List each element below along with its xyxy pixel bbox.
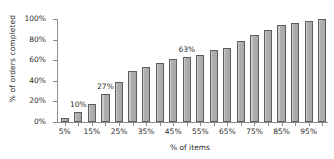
x-tick-label: 35% <box>138 127 155 136</box>
bar <box>115 82 123 122</box>
x-tick-mark <box>187 122 188 126</box>
bar <box>196 55 204 122</box>
bar <box>264 30 272 122</box>
x-tick-mark <box>200 122 201 126</box>
x-tick-mark <box>146 122 147 126</box>
x-tick-mark <box>282 122 283 126</box>
y-tick-mark <box>53 81 57 82</box>
bar <box>210 50 218 122</box>
x-tick-mark <box>295 122 296 126</box>
plot-area: 0%20%40%60%80%100% 5%15%25%35%45%55%65%7… <box>57 19 328 122</box>
y-tick-mark <box>53 101 57 102</box>
x-tick-mark <box>105 122 106 126</box>
bar <box>223 48 231 122</box>
x-tick-label: 15% <box>84 127 101 136</box>
x-tick-mark <box>78 122 79 126</box>
x-tick-label: 75% <box>246 127 263 136</box>
x-tick-mark <box>214 122 215 126</box>
x-tick-label: 65% <box>219 127 236 136</box>
x-tick-label: 55% <box>192 127 209 136</box>
y-tick-mark <box>53 122 57 123</box>
x-axis-title: % of items <box>56 143 324 152</box>
y-tick-mark <box>53 60 57 61</box>
y-tick-label: 60% <box>29 55 46 64</box>
x-tick-mark <box>241 122 242 126</box>
bar-value-annotation: 10% <box>70 100 87 109</box>
bar <box>291 23 299 122</box>
bar <box>88 104 96 122</box>
y-tick-label: 20% <box>29 96 46 105</box>
y-tick-mark <box>53 19 57 20</box>
bar <box>318 19 326 122</box>
x-tick-mark <box>65 122 66 126</box>
x-tick-mark <box>254 122 255 126</box>
x-tick-mark <box>227 122 228 126</box>
y-tick-mark <box>53 40 57 41</box>
y-axis-title: % of orders completed <box>8 1 17 117</box>
y-tick-label: 40% <box>29 76 46 85</box>
bar <box>277 25 285 122</box>
x-tick-mark <box>92 122 93 126</box>
y-axis-line <box>57 19 58 123</box>
bar <box>74 112 82 122</box>
x-tick-label: 85% <box>273 127 290 136</box>
bar <box>142 67 150 122</box>
bar <box>61 118 69 122</box>
x-tick-mark <box>133 122 134 126</box>
x-tick-label: 5% <box>59 127 71 136</box>
y-tick-label: 100% <box>25 14 46 23</box>
x-tick-mark <box>268 122 269 126</box>
bar <box>183 57 191 122</box>
bar <box>305 21 313 122</box>
bar <box>237 41 245 122</box>
x-tick-mark <box>119 122 120 126</box>
x-tick-mark <box>322 122 323 126</box>
bar <box>250 35 258 122</box>
bar <box>156 63 164 122</box>
x-tick-label: 25% <box>111 127 128 136</box>
y-tick-label: 0% <box>34 117 46 126</box>
bar <box>169 59 177 122</box>
x-tick-mark <box>173 122 174 126</box>
chart-screenshot: % of orders completed 0%20%40%60%80%100%… <box>0 0 334 159</box>
y-tick-label: 80% <box>29 35 46 44</box>
x-tick-label: 45% <box>165 127 182 136</box>
x-tick-mark <box>160 122 161 126</box>
bar <box>101 94 109 122</box>
x-tick-mark <box>309 122 310 126</box>
bar-value-annotation: 63% <box>178 45 195 54</box>
x-axis-line <box>57 122 328 123</box>
bar-value-annotation: 27% <box>97 82 114 91</box>
x-tick-label: 95% <box>300 127 317 136</box>
bar <box>128 71 136 123</box>
